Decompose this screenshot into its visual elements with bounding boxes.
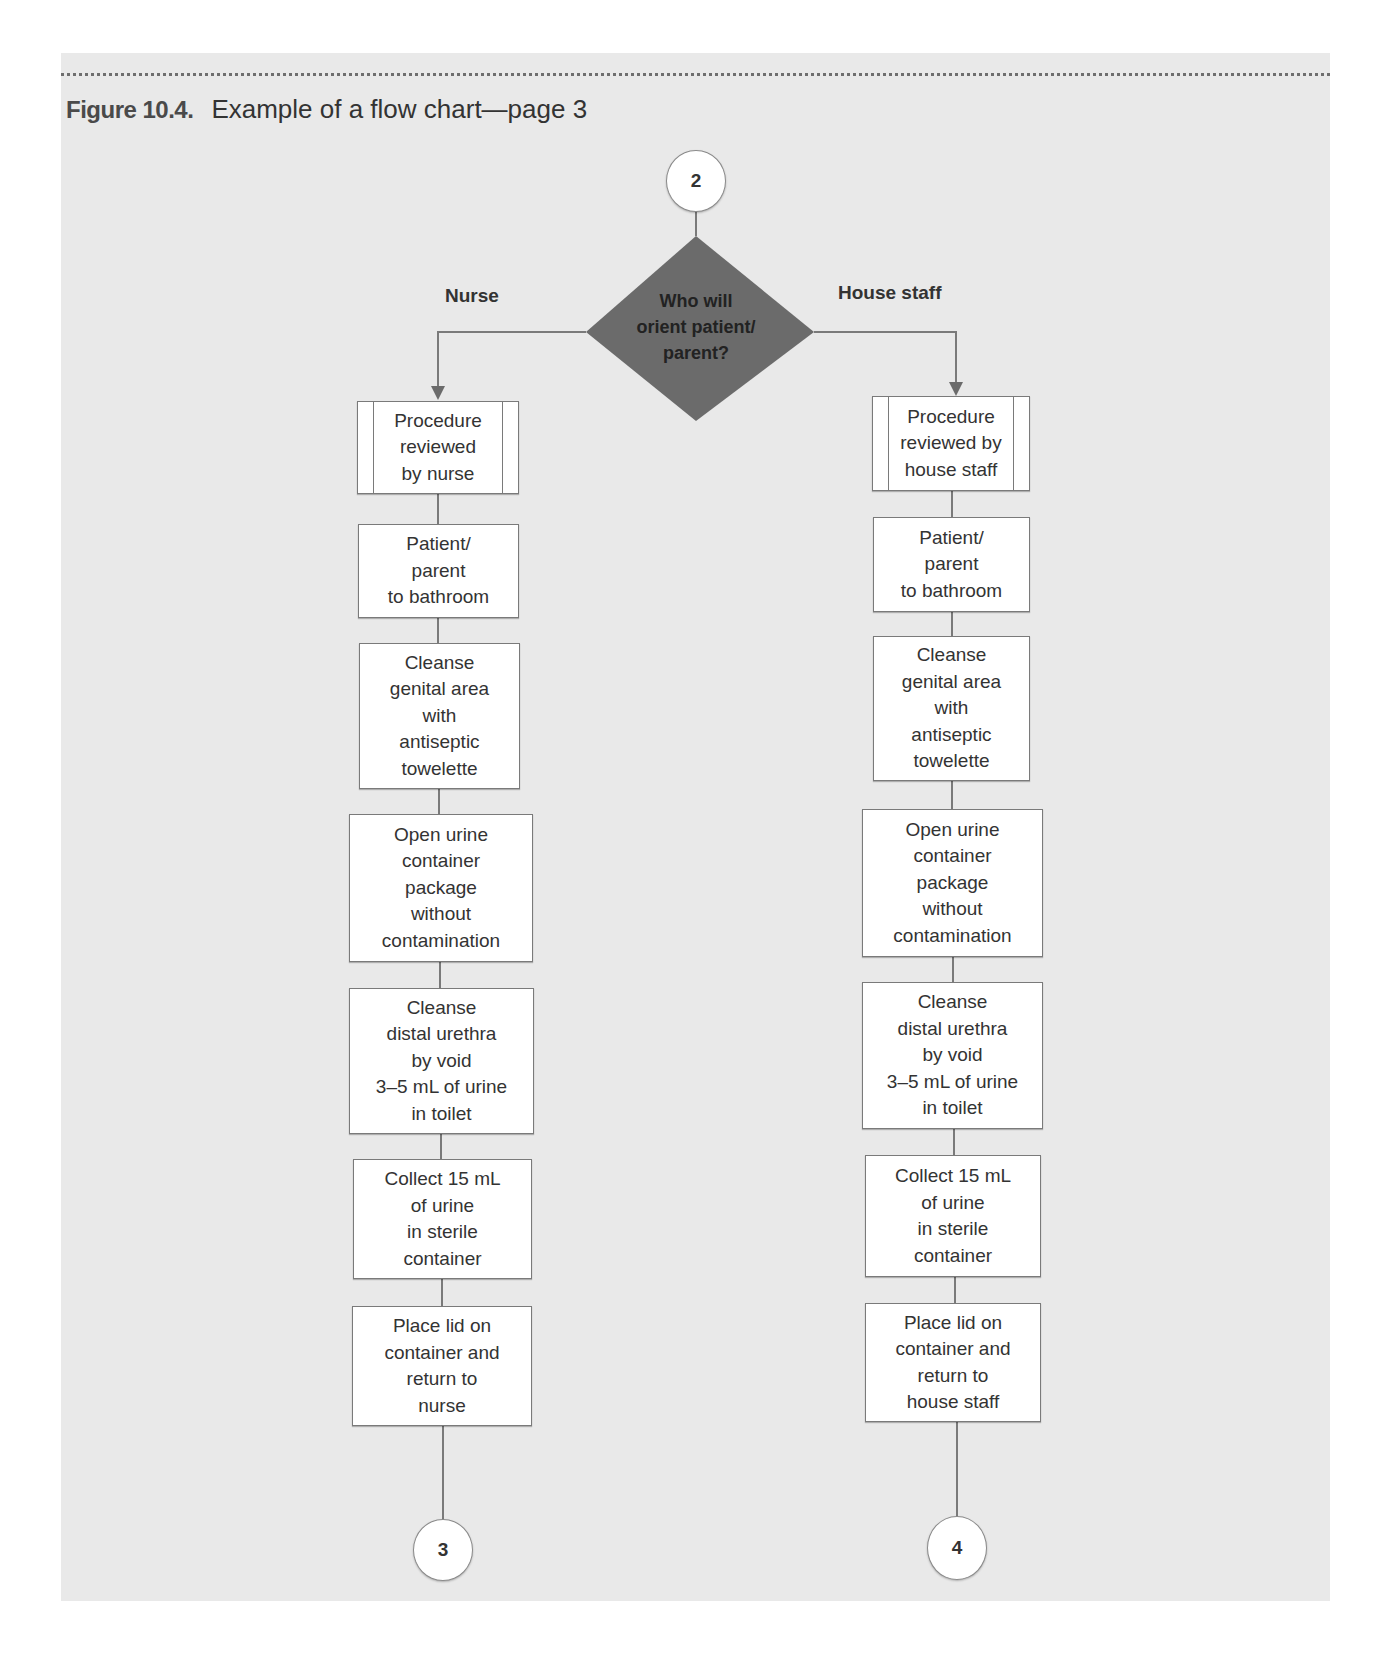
house-staff-step-cleanse-genital: Cleanse genital area with antiseptic tow… (873, 636, 1030, 781)
nurse-step-open-container: Open urine container package without con… (349, 814, 533, 962)
branch-label-nurse: Nurse (445, 285, 499, 307)
house-staff-step-procedure-review: Procedure reviewed by house staff (872, 396, 1030, 491)
arrowhead-icon (949, 382, 963, 396)
connector-start: 2 (666, 150, 726, 212)
connector-end-house-staff: 4 (927, 1516, 987, 1580)
nurse-step-cleanse-genital: Cleanse genital area with antiseptic tow… (359, 643, 520, 789)
nurse-step-collect-urine: Collect 15 mL of urine in sterile contai… (353, 1159, 532, 1279)
house-staff-step-open-container: Open urine container package without con… (862, 809, 1043, 957)
nurse-step-to-bathroom: Patient/ parent to bathroom (358, 524, 519, 618)
flowchart-connectors (0, 0, 1389, 1664)
connector-end-nurse: 3 (413, 1519, 473, 1581)
decision-question: Who will orient patient/ parent? (606, 288, 786, 366)
branch-label-house-staff: House staff (838, 282, 941, 304)
arrowhead-icon (431, 386, 445, 400)
house-staff-step-place-lid: Place lid on container and return to hou… (865, 1303, 1041, 1422)
nurse-step-cleanse-urethra: Cleanse distal urethra by void 3–5 mL of… (349, 988, 534, 1134)
house-staff-step-cleanse-urethra: Cleanse distal urethra by void 3–5 mL of… (862, 982, 1043, 1129)
house-staff-step-collect-urine: Collect 15 mL of urine in sterile contai… (865, 1155, 1041, 1277)
house-staff-step-to-bathroom: Patient/ parent to bathroom (873, 517, 1030, 612)
nurse-step-place-lid: Place lid on container and return to nur… (352, 1306, 532, 1426)
nurse-step-procedure-review: Procedure reviewed by nurse (357, 401, 519, 494)
